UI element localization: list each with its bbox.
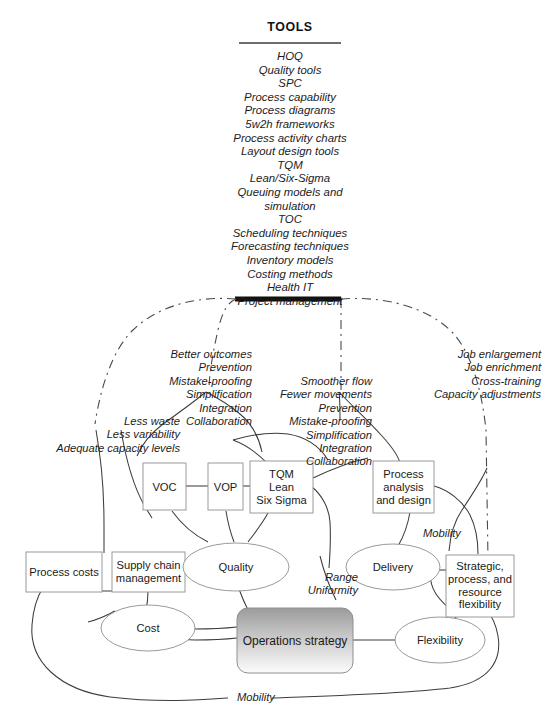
annotation-flexibility-drivers: Job enlargement Job enrichment Cross-tra… [434, 348, 541, 402]
tools-list: HOQ Quality tools SPC Process capability… [231, 50, 349, 308]
annotation-quality-drivers: Better outcomes Prevention Mistake-proof… [169, 348, 252, 428]
node-delivery-ellipse[interactable] [346, 544, 440, 590]
annotation-mobility-lower: Mobility [237, 691, 275, 704]
annotation-cost-drivers: Less waste Less variability Adequate cap… [56, 415, 180, 455]
node-quality-ellipse[interactable] [183, 543, 289, 591]
node-process-analysis-box[interactable] [373, 461, 434, 513]
annotation-range-uniformity: Range Uniformity [308, 571, 358, 598]
node-vop-box[interactable] [208, 463, 243, 510]
box-nodes [26, 461, 514, 673]
node-supply-chain-box[interactable] [112, 552, 185, 592]
tools-heading: TOOLS [267, 20, 312, 34]
node-operations-strategy-box[interactable] [237, 608, 353, 673]
node-strategic-flexibility-box[interactable] [446, 555, 514, 617]
diagram-canvas: TOOLS HOQ Quality tools SPC Process capa… [0, 0, 551, 725]
node-voc-box[interactable] [143, 463, 186, 510]
annotation-delivery-drivers: Smoother flow Fewer movements Prevention… [280, 375, 372, 469]
annotation-mobility-upper: Mobility [423, 527, 461, 540]
node-cost-ellipse[interactable] [101, 605, 195, 651]
node-process-costs-box[interactable] [26, 552, 102, 592]
node-flexibility-ellipse[interactable] [395, 617, 485, 663]
